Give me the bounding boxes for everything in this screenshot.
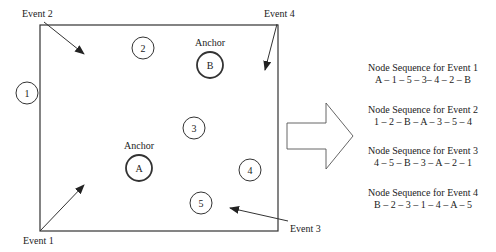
sequence-value: 1 – 2 – B – A – 3 – 5 – 4 xyxy=(357,116,489,128)
sequence-value: B – 2 – 3 – 1 – 4 – A – 5 xyxy=(357,199,489,211)
event-2-arrow xyxy=(44,22,84,54)
node-4: 4 xyxy=(239,159,261,181)
event-2-label: Event 2 xyxy=(22,9,53,19)
svg-text:A: A xyxy=(135,163,143,174)
node-3: 3 xyxy=(183,117,205,139)
event-1-arrow xyxy=(40,185,84,231)
node-5: 5 xyxy=(190,192,212,214)
svg-text:4: 4 xyxy=(248,165,253,176)
node-2: 2 xyxy=(132,37,154,59)
sequence-event-1: Node Sequence for Event 1 A – 1 – 5 – 3–… xyxy=(357,62,489,86)
svg-text:5: 5 xyxy=(199,198,204,209)
sequence-value: A – 1 – 5 – 3– 4 – 2 – B xyxy=(357,74,489,86)
sequence-title: Node Sequence for Event 4 xyxy=(357,187,489,199)
event-1-label: Event 1 xyxy=(23,236,54,246)
sequence-title: Node Sequence for Event 3 xyxy=(357,145,489,157)
anchor-a-caption: Anchor xyxy=(124,141,154,151)
svg-text:2: 2 xyxy=(141,43,146,54)
node-1: 1 xyxy=(16,82,38,104)
anchor-b-caption: Anchor xyxy=(195,38,225,48)
event-3-label: Event 3 xyxy=(290,224,321,234)
sequence-title: Node Sequence for Event 2 xyxy=(357,104,489,116)
anchor-a: A xyxy=(126,155,152,181)
event-4-arrow xyxy=(265,24,277,70)
sequence-value: 4 – 5 – B – 3 – A – 2 – 1 xyxy=(357,157,489,169)
svg-text:3: 3 xyxy=(192,123,197,134)
svg-text:1: 1 xyxy=(25,88,30,99)
field-boundary xyxy=(40,25,278,231)
sequence-event-3: Node Sequence for Event 3 4 – 5 – B – 3 … xyxy=(357,145,489,169)
transform-arrow-icon xyxy=(287,103,353,169)
sequence-event-2: Node Sequence for Event 2 1 – 2 – B – A … xyxy=(357,104,489,128)
anchor-b: B xyxy=(197,52,223,78)
svg-text:B: B xyxy=(207,60,214,71)
event-4-label: Event 4 xyxy=(264,9,295,19)
event-3-arrow xyxy=(230,208,288,221)
sequence-title: Node Sequence for Event 1 xyxy=(357,62,489,74)
sequence-event-4: Node Sequence for Event 4 B – 2 – 3 – 1 … xyxy=(357,187,489,211)
